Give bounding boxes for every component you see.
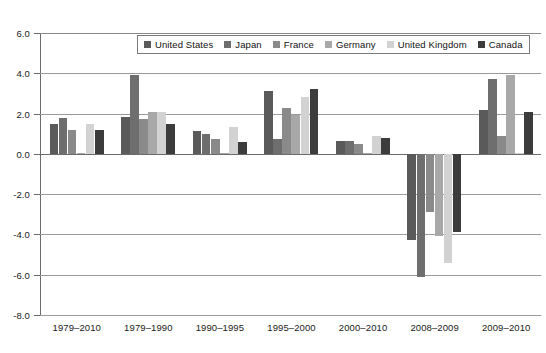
bar xyxy=(310,89,319,153)
legend-swatch-icon xyxy=(224,41,231,48)
bar-group xyxy=(193,33,247,315)
legend-label: Canada xyxy=(489,39,523,50)
y-axis-tick-label: -4.0 xyxy=(0,229,30,240)
y-axis-tick-label: 4.0 xyxy=(0,68,30,79)
x-axis-tick-label: 1995–2000 xyxy=(252,322,332,333)
legend-swatch-icon xyxy=(273,41,280,48)
y-axis-tick-label: 0.0 xyxy=(0,148,30,159)
gridline xyxy=(40,315,541,316)
bar xyxy=(166,124,175,154)
bar-groups xyxy=(41,33,541,315)
legend-label: Japan xyxy=(235,39,261,50)
bar xyxy=(211,139,220,154)
bar xyxy=(417,154,426,277)
bar xyxy=(68,130,77,154)
legend-item: Germany xyxy=(325,39,376,50)
y-axis-tick xyxy=(34,154,40,155)
x-axis-tick-label: 1979–2010 xyxy=(37,322,117,333)
bar xyxy=(86,124,95,154)
bar xyxy=(59,118,68,154)
bar xyxy=(121,117,130,154)
x-axis-tick-label: 2008–2009 xyxy=(395,322,475,333)
y-axis-tick xyxy=(34,73,40,74)
y-axis-tick xyxy=(34,315,40,316)
bar xyxy=(238,142,247,154)
bar xyxy=(229,127,238,154)
bar xyxy=(506,75,515,154)
bar xyxy=(50,124,59,154)
bar-group xyxy=(121,33,175,315)
legend-swatch-icon xyxy=(387,41,394,48)
y-axis-tick-label: 6.0 xyxy=(0,28,30,39)
x-axis-tick-label: 2009–2010 xyxy=(466,322,546,333)
bar xyxy=(407,154,416,241)
bar xyxy=(363,153,372,154)
y-axis-tick-label: -8.0 xyxy=(0,310,30,321)
legend-swatch-icon xyxy=(325,41,332,48)
x-axis-tick-label: 2000–2010 xyxy=(323,322,403,333)
chart-legend: United StatesJapanFranceGermanyUnited Ki… xyxy=(137,35,530,54)
bar xyxy=(139,119,148,154)
bar xyxy=(381,138,390,154)
legend-swatch-icon xyxy=(144,41,151,48)
bar xyxy=(488,79,497,154)
bar xyxy=(435,154,444,237)
y-axis-tick xyxy=(34,234,40,235)
y-axis-tick xyxy=(34,194,40,195)
bar xyxy=(157,112,166,154)
bar-group xyxy=(264,33,318,315)
bar xyxy=(130,75,139,154)
bar xyxy=(301,97,310,153)
y-axis-tick-label: -6.0 xyxy=(0,269,30,280)
bar xyxy=(345,141,354,154)
legend-item: Canada xyxy=(478,39,523,50)
bar-chart: 6.04.02.00.0-2.0-4.0-6.0-8.0 1979–201019… xyxy=(0,0,546,353)
bar-group xyxy=(407,33,461,315)
bar xyxy=(264,91,273,153)
y-axis-tick xyxy=(34,275,40,276)
bar xyxy=(426,154,435,212)
legend-item: Japan xyxy=(224,39,261,50)
bar xyxy=(354,144,363,154)
bar-group xyxy=(50,33,104,315)
legend-label: France xyxy=(284,39,314,50)
bar xyxy=(77,153,86,154)
bar-group xyxy=(479,33,533,315)
bar xyxy=(148,112,157,154)
y-axis-tick xyxy=(34,114,40,115)
bar xyxy=(515,153,524,154)
bar xyxy=(220,153,229,154)
legend-swatch-icon xyxy=(478,41,485,48)
legend-label: United States xyxy=(155,39,213,50)
bar xyxy=(444,154,453,263)
bar xyxy=(336,141,345,154)
bar-group xyxy=(336,33,390,315)
bar xyxy=(193,131,202,154)
bar xyxy=(202,134,211,154)
legend-item: United Kingdom xyxy=(387,39,467,50)
bar xyxy=(524,112,533,154)
y-axis-tick-label: -2.0 xyxy=(0,189,30,200)
bar xyxy=(273,139,282,154)
legend-label: United Kingdom xyxy=(398,39,467,50)
legend-label: Germany xyxy=(336,39,376,50)
bar xyxy=(453,154,462,233)
x-axis-tick-label: 1990–1995 xyxy=(180,322,260,333)
bar xyxy=(291,115,300,154)
legend-item: United States xyxy=(144,39,213,50)
y-axis-tick xyxy=(34,33,40,34)
bar xyxy=(95,130,104,154)
legend-item: France xyxy=(273,39,314,50)
y-axis-tick-label: 2.0 xyxy=(0,108,30,119)
bar xyxy=(479,110,488,154)
x-axis-tick-label: 1979–1990 xyxy=(108,322,188,333)
bar xyxy=(282,108,291,154)
bar xyxy=(372,136,381,154)
bar xyxy=(497,136,506,154)
